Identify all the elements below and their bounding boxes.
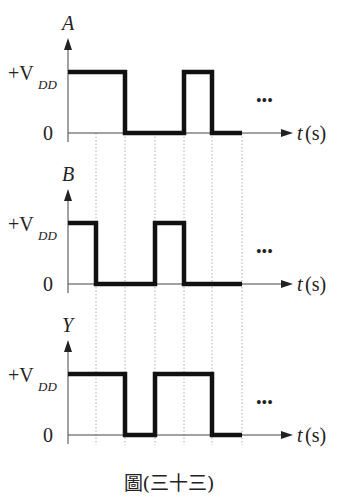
time-label-var: t: [297, 122, 303, 144]
time-label-unit: (s): [305, 122, 326, 145]
signal-b-plot: B +V DD 0 t (s) •••: [8, 163, 326, 296]
vdd-subscript: DD: [37, 228, 57, 243]
signal-a-plot: A +V DD 0 t (s) •••: [8, 12, 326, 145]
signal-y-label: Y: [62, 314, 75, 336]
time-label-var: t: [297, 273, 303, 295]
figure-caption: 圖(三十三): [0, 468, 338, 495]
time-axis-arrow-icon: [281, 431, 293, 439]
signal-a-waveform: [68, 72, 242, 133]
time-label-unit: (s): [305, 273, 326, 296]
vdd-subscript: DD: [37, 379, 57, 394]
y-axis-arrow-icon: [64, 340, 72, 352]
continuation-ellipsis: •••: [256, 243, 273, 260]
continuation-ellipsis: •••: [256, 394, 273, 411]
continuation-ellipsis: •••: [256, 92, 273, 109]
vdd-label: +V: [8, 62, 34, 84]
signal-y-plot: Y +V DD 0 t (s) •••: [8, 314, 326, 447]
time-axis-arrow-icon: [281, 280, 293, 288]
signal-a-label: A: [60, 12, 75, 34]
time-gridlines: [96, 133, 242, 445]
time-label-var: t: [297, 424, 303, 446]
vdd-subscript: DD: [37, 77, 57, 92]
y-axis-arrow-icon: [64, 38, 72, 50]
signal-y-waveform: [68, 374, 242, 435]
time-axis-arrow-icon: [281, 129, 293, 137]
time-label-unit: (s): [305, 424, 326, 447]
y-axis-arrow-icon: [64, 189, 72, 201]
vdd-label: +V: [8, 364, 34, 386]
signal-b-label: B: [62, 163, 74, 185]
signal-b-waveform: [68, 223, 242, 284]
zero-label: 0: [43, 424, 53, 446]
vdd-label: +V: [8, 213, 34, 235]
timing-diagram: A +V DD 0 t (s) ••• B +V DD 0 t (s) ••• …: [0, 0, 338, 499]
zero-label: 0: [43, 122, 53, 144]
zero-label: 0: [43, 273, 53, 295]
